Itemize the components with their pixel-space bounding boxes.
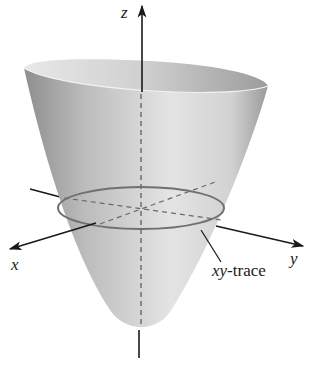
y-axis	[216, 226, 303, 246]
paraboloid-surface	[24, 68, 268, 327]
xy-trace-label-suffix: -trace	[227, 261, 266, 280]
y-axis-label: y	[290, 250, 298, 267]
z-axis-label: z	[121, 4, 128, 21]
paraboloid-diagram: z x y xy-trace	[0, 0, 311, 391]
x-axis-label: x	[11, 256, 19, 273]
xy-trace-label: xy-trace	[212, 262, 266, 279]
xy-trace-label-var: xy	[212, 261, 227, 280]
diagram-canvas	[0, 0, 311, 391]
